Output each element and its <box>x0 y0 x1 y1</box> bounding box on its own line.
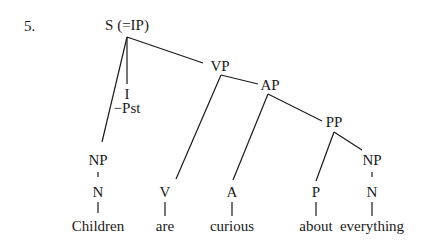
node-p: P <box>312 184 320 200</box>
node-object-np: NP <box>362 152 381 168</box>
word-children: Children <box>72 218 125 234</box>
branch-vp-v <box>176 75 221 179</box>
word-curious: curious <box>210 218 254 234</box>
word-everything: everything <box>340 218 404 234</box>
word-about: about <box>299 218 332 234</box>
node-object-n: N <box>367 184 378 200</box>
node-v: V <box>160 184 171 200</box>
node-subject-np: NP <box>88 152 107 168</box>
branch-ap-a <box>233 94 268 180</box>
branch-vp-ap <box>221 75 258 84</box>
node-vp: VP <box>210 58 229 74</box>
branch-s-vp <box>127 37 203 63</box>
branch-s-np <box>102 37 127 142</box>
node-a: A <box>227 184 238 200</box>
node-pp: PP <box>326 114 343 130</box>
node-i-feature: −Pst <box>114 100 141 116</box>
example-number: 5. <box>24 18 35 34</box>
node-s: S (=IP) <box>105 17 149 33</box>
branch-ap-pp <box>268 94 322 121</box>
branch-pp-p <box>316 132 334 181</box>
branch-pp-np <box>334 132 362 150</box>
node-ap: AP <box>260 77 279 93</box>
word-are: are <box>156 218 174 234</box>
tree-branches <box>0 0 431 247</box>
node-subject-n: N <box>93 184 104 200</box>
